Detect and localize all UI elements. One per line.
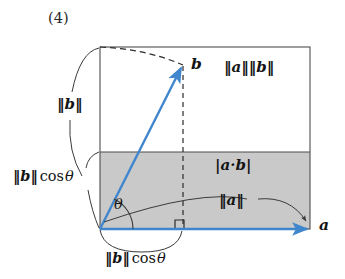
norm-b-label: ‖b‖ [57,97,83,112]
norm-a-label: ‖a‖ [219,193,244,208]
norm-b-cos-theta-left-label: ‖b‖cosθ [13,169,74,184]
norm-b-cos-theta-bottom-label: ‖b‖cosθ [105,251,166,266]
norm-b-cos-brace-arc-lower [88,190,99,228]
vector-b-label: b [191,56,202,72]
norm-b-cos-left-theta: θ [65,168,74,184]
norm-b-cos-left-cos: cos [40,168,64,184]
norm-b-cos-brace-arc-upper [86,152,99,168]
norm-b-brace-arc-upper [72,48,99,92]
norm-b-cos-bottom-bars: ‖b‖ [105,249,130,266]
vector-dot-product-figure: (4) ‖a‖‖b‖ b a |a·b| ‖a‖ ‖b‖ ‖b‖cosθ ‖b‖… [0,0,345,279]
item-number-label: (4) [48,11,69,26]
norm-b-cos-bottom-theta: θ [157,250,166,266]
vector-a-label: a [319,217,329,233]
figure-drawing [0,0,345,279]
norm-b-cos-bottom-cos: cos [132,250,156,266]
abs-a-dot-b-label: |a·b| [215,158,251,173]
norm-b-cos-left-bars: ‖b‖ [13,167,38,184]
theta-angle-label: θ [114,197,123,212]
norm-a-norm-b-label: ‖a‖‖b‖ [224,60,274,75]
dashed-rotation-arc [100,47,183,65]
